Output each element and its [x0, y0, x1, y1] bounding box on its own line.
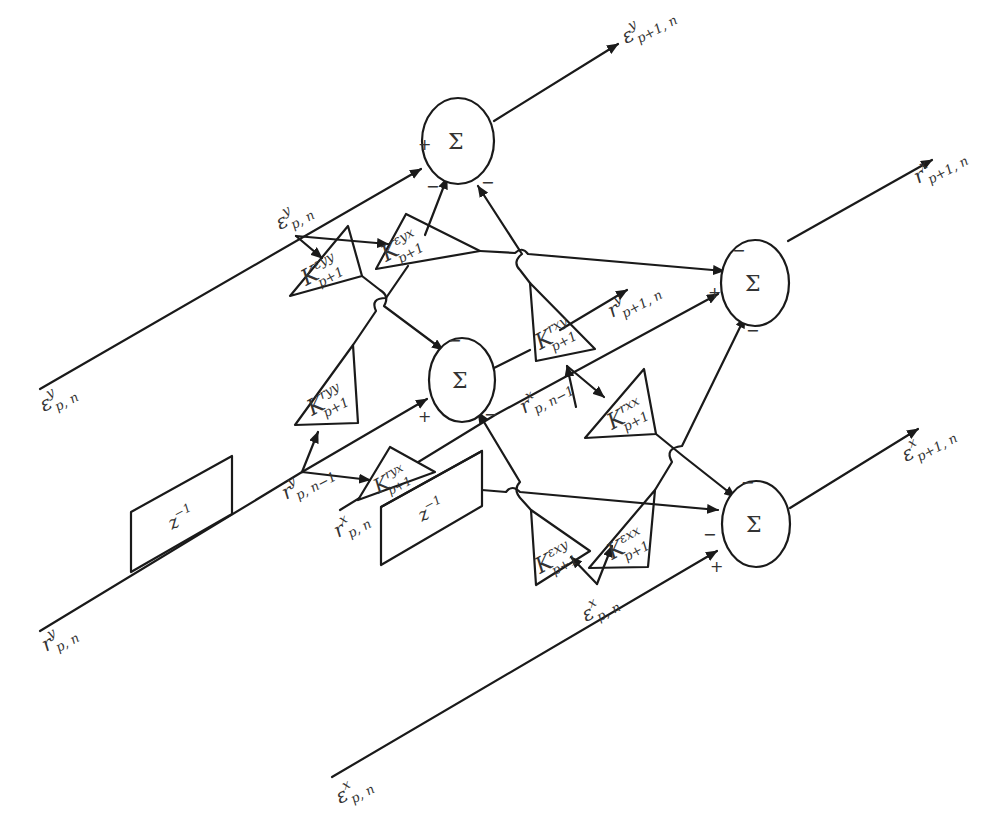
- label-r-y-in: ryp, n: [36, 616, 82, 660]
- label-r-x-out: rxp+1, n: [908, 139, 971, 192]
- eps-x-output-line: [790, 429, 918, 508]
- svg-text:εxp+1, n: εxp+1, n: [896, 416, 960, 470]
- svg-text:−: −: [746, 321, 759, 340]
- svg-text:+: +: [710, 557, 723, 576]
- svg-text:Σ: Σ: [745, 271, 761, 296]
- svg-text:εyp, n: εyp, n: [34, 375, 81, 420]
- summer-eps-y: Σ: [422, 98, 494, 184]
- svg-text:−: −: [481, 173, 494, 192]
- eps-y-input-line: [40, 169, 421, 389]
- label-r-y-delayed: ryp, n−1: [276, 455, 339, 508]
- eps-x-input-line: [332, 551, 717, 777]
- label-eps-x-out: εxp+1, n: [896, 416, 960, 470]
- svg-text:Σ: Σ: [746, 512, 762, 537]
- label-eps-y-out: εyp+1, n: [616, 0, 680, 52]
- r-x-output-line: [788, 160, 932, 241]
- svg-text:+: +: [708, 283, 721, 302]
- lattice-filter-diagram: Σ Σ Σ Σ + − − − + − − + − − − + z−1 z−1 …: [0, 0, 993, 832]
- svg-text:−: −: [448, 331, 461, 350]
- svg-text:+: +: [418, 135, 431, 154]
- svg-text:−: −: [741, 473, 754, 492]
- eps-y-output-line: [494, 44, 618, 121]
- svg-text:rxp+1, n: rxp+1, n: [908, 139, 971, 192]
- svg-text:Σ: Σ: [448, 129, 464, 154]
- label-eps-x-tap: εxp, n: [576, 585, 623, 630]
- svg-text:rxp, n: rxp, n: [328, 502, 374, 546]
- svg-text:−: −: [484, 405, 497, 424]
- svg-text:−: −: [703, 525, 716, 544]
- svg-text:εyp, n: εyp, n: [270, 193, 317, 238]
- svg-text:Σ: Σ: [452, 368, 468, 393]
- label-eps-y-tap: εyp, n: [270, 193, 317, 238]
- svg-text:+: +: [418, 407, 431, 426]
- svg-text:ryp, n−1: ryp, n−1: [276, 455, 339, 508]
- svg-text:εyp+1, n: εyp+1, n: [616, 0, 680, 52]
- label-r-x-in: rxp, n: [328, 502, 374, 546]
- summer-eps-x: Σ: [722, 481, 790, 567]
- label-r-y-out: ryp+1, n: [602, 273, 665, 326]
- svg-text:ryp, n: ryp, n: [36, 616, 82, 660]
- svg-text:εxp, n: εxp, n: [576, 585, 623, 630]
- svg-text:ryp+1, n: ryp+1, n: [602, 273, 665, 326]
- svg-text:−: −: [426, 177, 439, 196]
- label-eps-y-in: εyp, n: [34, 375, 81, 420]
- svg-text:−: −: [732, 241, 745, 260]
